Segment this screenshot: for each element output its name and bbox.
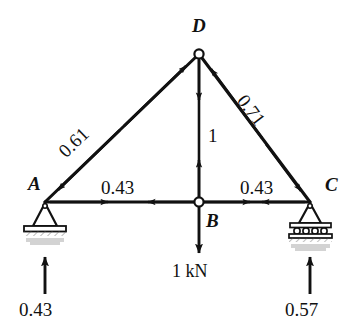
support-reflection-A xyxy=(26,238,64,245)
support-hatch-A xyxy=(24,231,66,236)
support-roller-C xyxy=(289,203,332,251)
member-force-label-BC: 0.43 xyxy=(240,178,273,197)
reaction-label-C: 0.57 xyxy=(285,300,318,319)
force-arrow-AD-toward-D xyxy=(124,66,186,126)
node-label-B: B xyxy=(206,211,219,230)
node-label-A: A xyxy=(28,174,41,193)
figure-canvas: D A B C 0.61 0.71 1 0.43 0.43 1 kN 0.43 … xyxy=(0,0,354,330)
support-reflection-C xyxy=(291,244,330,251)
node-label-D: D xyxy=(192,16,206,35)
member-force-label-AB: 0.43 xyxy=(101,178,134,197)
reaction-label-A: 0.43 xyxy=(19,300,52,319)
load-label-B: 1 kN xyxy=(172,262,208,280)
support-pin-A xyxy=(24,203,66,245)
joint-marker-B xyxy=(194,197,203,206)
joint-marker-D xyxy=(194,49,203,58)
support-hatch-C xyxy=(289,238,332,242)
node-label-C: C xyxy=(325,175,338,194)
member-force-label-DB: 1 xyxy=(208,126,218,145)
